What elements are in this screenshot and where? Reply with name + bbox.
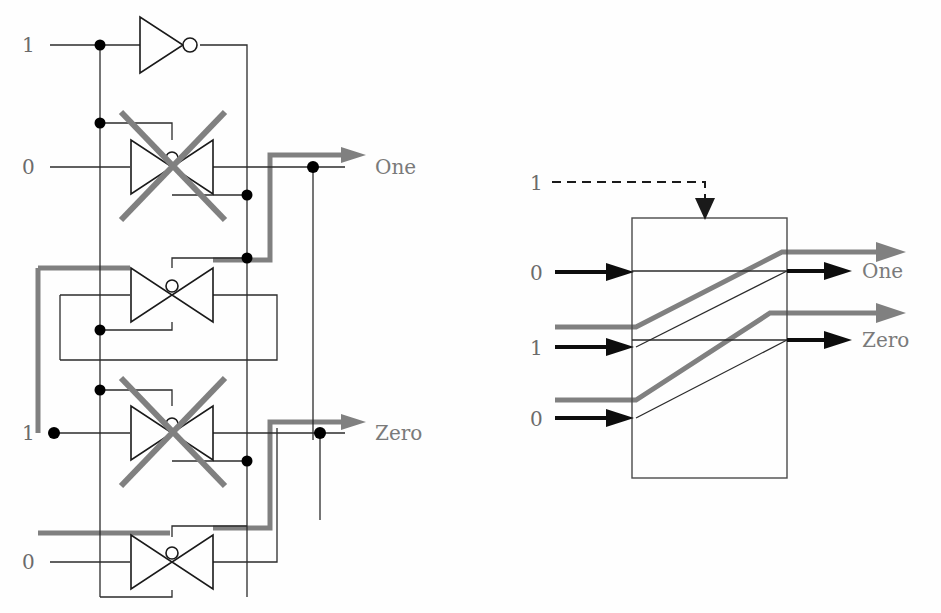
- arrowhead-output-zero: [824, 331, 852, 349]
- tgate2-bubble-icon: [166, 280, 178, 292]
- right-block: 1 0 1 0 One Zero: [530, 171, 909, 478]
- right-output-label-one: One: [862, 259, 903, 283]
- right-input-label-0a: 0: [530, 261, 543, 285]
- control-signal: [552, 182, 715, 220]
- right-output-label-zero: Zero: [862, 328, 909, 352]
- junction-dot: [95, 325, 106, 336]
- left-input-label-1: 1: [22, 33, 35, 57]
- right-output-arrows: [787, 262, 852, 349]
- disabled-crosses: [121, 112, 225, 486]
- left-circuit: 1 0 1 0 One Zero: [22, 17, 422, 597]
- left-input-label-3: 1: [22, 421, 35, 445]
- left-output-label-one: One: [375, 155, 416, 179]
- junction-dot: [242, 456, 253, 467]
- left-input-label-2: 0: [22, 155, 35, 179]
- inverter[interactable]: [140, 17, 197, 73]
- right-input-label-0b: 0: [530, 407, 543, 431]
- gray-path-upper: [555, 252, 880, 327]
- right-control-label: 1: [530, 171, 543, 195]
- cross-tgate1-icon: [121, 112, 225, 220]
- schematic-svg: 1 0 1 0 One Zero: [0, 0, 941, 613]
- arrowhead-input-1: [606, 338, 634, 356]
- junction-dot: [48, 427, 60, 439]
- left-output-label-zero: Zero: [375, 421, 422, 445]
- mux-block-rect[interactable]: [632, 218, 787, 478]
- transmission-gate-2[interactable]: [131, 268, 213, 322]
- right-input-label-1: 1: [530, 336, 543, 360]
- wire-g4-out: [213, 428, 277, 562]
- highlight-paths: [38, 155, 345, 533]
- right-thin-paths: [632, 271, 787, 418]
- wire-g2-out: [60, 295, 277, 360]
- wire-g2-bot-ctl: [100, 322, 172, 330]
- tgate4-right-triangle: [172, 535, 213, 589]
- tgate4-bubble-icon: [166, 547, 178, 559]
- junction-dot: [314, 427, 326, 439]
- arrowhead-input-0b: [606, 409, 634, 427]
- arrowhead-output-one: [824, 262, 852, 280]
- junction-dot: [95, 40, 106, 51]
- left-input-label-4: 0: [22, 550, 35, 574]
- inverter-bubble-icon: [183, 38, 197, 52]
- highlight-path-zero: [213, 422, 345, 528]
- highlight-path-one: [213, 155, 345, 260]
- junction-nodes: [48, 40, 326, 467]
- arrowhead-input-0a: [606, 263, 634, 281]
- thin-path-upper: [636, 271, 787, 347]
- arrowhead-zero-gray: [341, 414, 366, 430]
- cross-tgate3-icon: [121, 378, 225, 486]
- junction-dot: [307, 161, 319, 173]
- control-dashed-line: [552, 182, 705, 200]
- thin-wires: [50, 45, 345, 597]
- arrowhead-gray-lower: [876, 303, 906, 323]
- inverter-triangle: [140, 17, 183, 73]
- highlight-arrowheads: [341, 147, 366, 430]
- arrowhead-one-gray: [341, 147, 366, 163]
- tgate2-left-triangle: [131, 268, 172, 322]
- tgate2-right-triangle: [172, 268, 213, 322]
- junction-dot: [95, 118, 106, 129]
- figure-canvas: 1 0 1 0 One Zero: [0, 0, 941, 613]
- junction-dot: [242, 253, 253, 264]
- junction-dot: [95, 385, 106, 396]
- transmission-gate-4[interactable]: [131, 535, 213, 589]
- tgate4-left-triangle: [131, 535, 172, 589]
- junction-dot: [242, 190, 253, 201]
- wire-g4-bot-ctl: [100, 590, 172, 597]
- control-arrowhead-icon: [695, 198, 715, 220]
